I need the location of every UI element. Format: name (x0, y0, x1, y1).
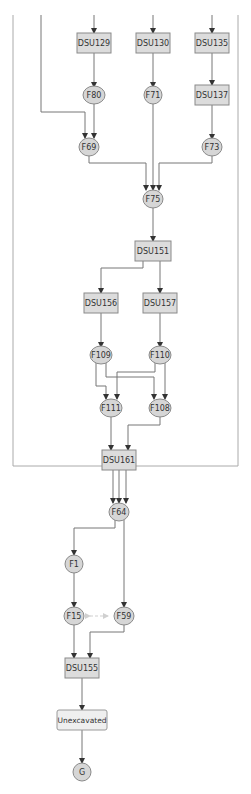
node-F111[interactable]: F111 (100, 399, 122, 417)
node-DSU161[interactable]: DSU161 (102, 450, 136, 470)
node-DSU137[interactable]: DSU137 (195, 85, 229, 105)
node-label: F110 (150, 351, 170, 360)
node-F64[interactable]: F64 (109, 503, 129, 521)
node-label: F1 (69, 560, 79, 569)
node-DSU155[interactable]: DSU155 (65, 658, 99, 678)
group-border (13, 15, 238, 466)
node-F110[interactable]: F110 (149, 346, 171, 364)
node-label: F59 (117, 612, 132, 621)
node-label: DSU129 (78, 39, 110, 48)
node-DSU129[interactable]: DSU129 (77, 33, 111, 53)
node-F59[interactable]: F59 (114, 607, 134, 625)
node-DSU156[interactable]: DSU156 (84, 293, 118, 313)
node-label: F15 (67, 612, 82, 621)
node-label: DSU157 (144, 299, 176, 308)
node-F80[interactable]: F80 (83, 86, 105, 104)
node-DSU151[interactable]: DSU151 (135, 241, 171, 261)
edges (74, 53, 212, 763)
node-unexcavated[interactable]: Unexcavated (57, 710, 107, 730)
node-label: G (79, 768, 85, 777)
node-label: F64 (112, 508, 127, 517)
node-label: F109 (91, 351, 111, 360)
node-label: F108 (150, 404, 170, 413)
node-label: DSU137 (196, 91, 228, 100)
node-label: Unexcavated (57, 716, 106, 725)
node-F71[interactable]: F71 (144, 86, 162, 104)
harris-matrix-diagram: DSU129 DSU130 DSU135 F80 F71 DSU137 F69 … (0, 0, 251, 794)
node-label: DSU135 (196, 39, 228, 48)
node-label: DSU156 (85, 299, 117, 308)
node-label: F69 (82, 143, 97, 152)
node-F108[interactable]: F108 (149, 399, 171, 417)
node-label: F111 (101, 404, 121, 413)
node-G[interactable]: G (73, 763, 91, 781)
node-label: DSU155 (66, 664, 98, 673)
node-label: DSU151 (137, 247, 169, 256)
node-label: DSU161 (103, 456, 135, 465)
node-label: F73 (205, 143, 220, 152)
node-label: F71 (146, 91, 161, 100)
node-F69[interactable]: F69 (79, 138, 99, 156)
node-F73[interactable]: F73 (202, 138, 222, 156)
node-DSU130[interactable]: DSU130 (136, 33, 170, 53)
node-label: DSU130 (137, 39, 169, 48)
node-label: F80 (87, 91, 102, 100)
node-F1[interactable]: F1 (65, 555, 83, 573)
entry-edges (94, 15, 212, 33)
node-DSU157[interactable]: DSU157 (143, 293, 177, 313)
node-F15[interactable]: F15 (64, 607, 84, 625)
node-F109[interactable]: F109 (90, 346, 112, 364)
node-F75[interactable]: F75 (143, 190, 163, 208)
node-label: F75 (146, 195, 161, 204)
node-DSU135[interactable]: DSU135 (195, 33, 229, 53)
